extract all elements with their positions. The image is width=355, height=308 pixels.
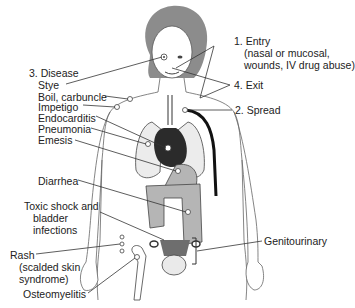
entry-detail-2: wounds, IV drug abuse) (244, 59, 355, 71)
left-hand (80, 262, 98, 291)
right-arm-outline (234, 112, 258, 262)
disease-rash-1: Rash (10, 249, 35, 261)
entry-label: 1. Entry (234, 35, 270, 47)
entry-detail-1: (nasal or mucosal, (244, 47, 330, 59)
disease-emesis: Emesis (38, 134, 72, 146)
intestines (146, 184, 202, 244)
face-shape (152, 26, 192, 78)
disease-label: 3. Disease (29, 67, 79, 79)
spread-label: 2. Spread (235, 104, 281, 116)
disease-toxic-shock-3: infections (33, 224, 77, 236)
disease-toxic-shock-1: Toxic shock and (24, 200, 99, 212)
disease-toxic-shock-2: bladder (33, 212, 68, 224)
disease-rash-2: (scalded skin (19, 261, 80, 273)
uterus (160, 240, 190, 256)
right-hand (246, 262, 264, 290)
femur (132, 246, 146, 300)
disease-stye: Stye (38, 79, 59, 91)
disease-diarrhea: Diarrhea (38, 175, 78, 187)
disease-rash-3: syndrome) (19, 273, 69, 285)
bladder (162, 255, 186, 275)
disease-genitourinary: Genitourinary (264, 235, 327, 247)
exit-label: 4. Exit (234, 79, 263, 91)
disease-osteomyelitis: Osteomyelitis (23, 288, 86, 300)
